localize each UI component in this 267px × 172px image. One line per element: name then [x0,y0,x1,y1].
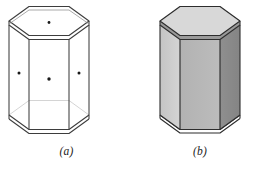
top-face-dot [48,21,51,24]
figure-a: (a) [0,0,133,172]
face-center-dot [18,72,21,75]
face-center-dot [47,77,50,80]
front-face [180,40,220,130]
figure-a-drawing [0,0,133,144]
bottom-hexagon-face [9,101,89,134]
prism-lateral-faces [160,25,240,130]
figure-b: (b) [133,0,267,172]
right-face [220,25,240,130]
figure-b-drawing [133,0,267,144]
left-face [160,25,180,130]
figure-a-caption: (a) [0,144,133,158]
figure-panel: (a) [0,0,267,172]
face-center-dot [78,72,81,75]
figure-b-caption: (b) [133,144,267,158]
